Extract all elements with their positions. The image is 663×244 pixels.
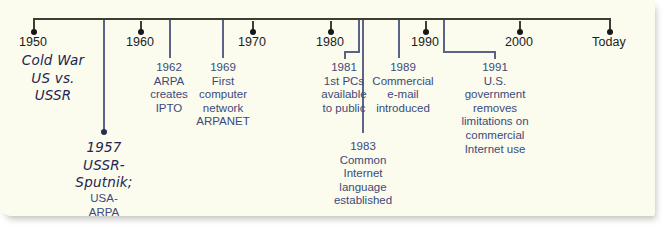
event-sputnik-sub: USA- ARPA	[60, 192, 148, 216]
axis-label-1990: 1990	[411, 35, 439, 49]
timeline-card: 1950 1960 1970 1980 1990 2000 Today Cold…	[0, 0, 655, 216]
event-commercial-email: 1989 Commercial e-mail introduced	[364, 61, 442, 115]
event-sputnik: 1957 USSR- Sputnik;	[60, 139, 148, 192]
connector-1981-vertical	[358, 20, 360, 52]
connector-1991-horizontal	[443, 51, 495, 53]
connector-1991-stub	[494, 51, 496, 59]
event-arpanet: 1969 First computer network ARPANET	[185, 61, 261, 129]
connector-1989	[398, 20, 400, 58]
event-common-language: 1983 Common Internet language establishe…	[325, 140, 401, 208]
connector-1957	[103, 20, 105, 132]
event-cold-war: Cold War US vs. USSR	[8, 52, 98, 105]
axis-label-1980: 1980	[316, 35, 344, 49]
connector-1969	[222, 20, 224, 58]
connector-1981-horizontal	[344, 51, 360, 53]
connector-1981-stub	[344, 51, 346, 59]
axis-label-today: Today	[592, 35, 626, 49]
event-us-gov-removes-limits: 1991 U.S. government removes limitations…	[449, 61, 541, 156]
connector-1991-vertical	[443, 20, 445, 52]
connector-dot-1957	[101, 129, 107, 135]
timeline-axis	[33, 18, 611, 20]
axis-label-1970: 1970	[238, 35, 266, 49]
axis-label-1960: 1960	[126, 35, 154, 49]
axis-label-1950: 1950	[19, 35, 47, 49]
axis-label-2000: 2000	[505, 35, 533, 49]
connector-1962	[169, 20, 171, 58]
